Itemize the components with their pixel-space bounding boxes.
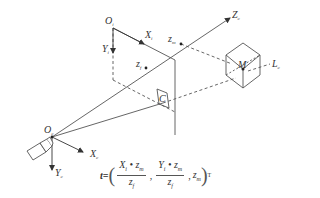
formula-comma-2: , <box>188 170 191 181</box>
camera-rays <box>52 18 270 137</box>
label-y-c: Yc <box>55 167 64 179</box>
zm-marker <box>180 43 183 46</box>
formula-lhs: t= <box>100 170 108 181</box>
label-c: C <box>159 93 166 104</box>
label-z-m: zm <box>167 33 176 45</box>
zf-marker <box>145 67 148 70</box>
zm-projection-dashed <box>181 44 232 64</box>
z-c-axis <box>52 18 230 137</box>
x-i-axis <box>113 28 144 44</box>
formula-open-paren: ( <box>108 165 115 185</box>
label-z-f: zf <box>135 58 142 70</box>
camera-frame-axes <box>52 137 83 170</box>
label-m: M <box>237 59 247 70</box>
label-o-c: Oc <box>44 124 54 136</box>
formula-transpose: T <box>208 172 212 178</box>
label-o-i: Oi <box>105 15 114 27</box>
translation-formula: t= ( Xi • zm zf , Yi • zm zf , zm ) T <box>100 158 290 192</box>
formula-close-paren: ) <box>201 165 208 185</box>
ray-to-m-dashed <box>163 78 236 103</box>
formula-term-2: Yi • zm zf <box>156 159 184 192</box>
image-frame-axes <box>113 28 144 53</box>
x-c-axis <box>52 137 83 152</box>
label-z-c: Zc <box>232 9 241 21</box>
formula-term-1: Xi • zm zf <box>117 159 146 192</box>
image-plane <box>113 28 175 135</box>
formula-term-3: zm <box>193 169 201 182</box>
camera-icon <box>27 137 53 160</box>
label-y-i: Yi <box>102 43 110 55</box>
formula-comma-1: , <box>150 170 153 181</box>
l-c-line-dashed <box>248 64 270 71</box>
label-x-i: Xi <box>144 29 153 41</box>
ray-to-c <box>52 103 163 137</box>
label-l-c: Lc <box>271 58 281 70</box>
label-x-c: Xc <box>89 148 99 160</box>
camera-origin-marker <box>51 136 54 139</box>
